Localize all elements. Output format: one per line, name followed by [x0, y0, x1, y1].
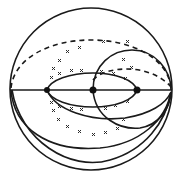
inner-lower-arc [47, 90, 171, 119]
sphere-diagram [0, 0, 180, 181]
left-point [44, 87, 50, 93]
dashed-inner-arc [93, 69, 172, 88]
center-point [90, 87, 97, 94]
dashed-outer-ellipse [11, 40, 171, 88]
diagram-canvas [0, 0, 180, 181]
right-point [134, 87, 141, 94]
